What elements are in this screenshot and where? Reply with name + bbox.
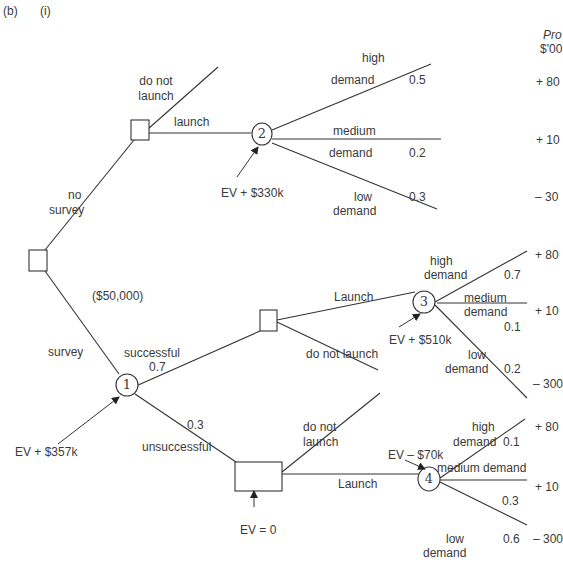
c4-high-line2: demand bbox=[453, 435, 496, 449]
chance-node-3-ev: EV + $510k bbox=[389, 333, 451, 347]
c4-low-prob: 0.6 bbox=[503, 532, 520, 546]
unsuccessful-prob: 0.3 bbox=[187, 418, 204, 432]
chance-node-3-label: 3 bbox=[417, 295, 431, 309]
profit-header-line1: Pro bbox=[543, 28, 562, 42]
top-launch-label: launch bbox=[174, 115, 209, 129]
survey-cost: ($50,000) bbox=[92, 289, 143, 303]
unsuccessful-decision-ev: EV = 0 bbox=[240, 523, 276, 537]
c4-high-profit: + 80 bbox=[535, 420, 559, 434]
decision-node-no-survey bbox=[131, 120, 149, 140]
c3-high-profit: + 80 bbox=[535, 248, 559, 262]
c4-low-line1: low bbox=[446, 532, 464, 546]
c2-medium-prob: 0.2 bbox=[409, 146, 426, 160]
top-do-not-launch-line1: do not bbox=[132, 74, 180, 88]
c3-low-prob: 0.2 bbox=[504, 362, 521, 376]
c3-medium-line1: medium bbox=[464, 291, 507, 305]
decision-node-successful bbox=[260, 310, 277, 331]
c2-high-profit: + 80 bbox=[536, 75, 560, 89]
unsuccessful-label: unsuccessful bbox=[142, 440, 211, 454]
c3-medium-prob: 0.1 bbox=[504, 320, 521, 334]
no-survey-line2: survey bbox=[49, 203, 84, 217]
c2-medium-line1: medium bbox=[333, 124, 376, 138]
decision-node-root bbox=[29, 250, 47, 271]
c3-medium-profit: + 10 bbox=[535, 304, 559, 318]
top-do-not-launch-line2: launch bbox=[132, 89, 180, 103]
c4-medium-profit: + 10 bbox=[535, 480, 559, 494]
no-survey-line1: no bbox=[68, 188, 81, 202]
chance-node-2-label: 2 bbox=[255, 127, 269, 141]
successful-prob: 0.7 bbox=[149, 360, 166, 374]
c2-medium-profit: + 10 bbox=[536, 133, 560, 147]
decision-node-unsuccessful bbox=[235, 462, 282, 491]
c4-low-profit: – 300 bbox=[533, 532, 563, 546]
c2-high-line1: high bbox=[362, 51, 385, 65]
c2-low-prob: 0.3 bbox=[409, 190, 426, 204]
c2-high-prob: 0.5 bbox=[409, 73, 426, 87]
c2-low-line2: demand bbox=[333, 204, 376, 218]
c4-low-line2: demand bbox=[423, 546, 466, 560]
chance-node-2-ev: EV + $330k bbox=[221, 186, 283, 200]
chance-node-1-ev: EV + $357k bbox=[15, 445, 77, 459]
c3-high-line1: high bbox=[430, 254, 453, 268]
profit-header-line2: $'00 bbox=[540, 42, 562, 56]
c4-high-line1: high bbox=[472, 420, 495, 434]
part-label: (b) bbox=[3, 4, 18, 18]
c3-medium-line2: demand bbox=[464, 305, 507, 319]
c2-low-profit: – 30 bbox=[535, 190, 558, 204]
subpart-label: (i) bbox=[40, 4, 51, 18]
succ-do-not-launch-label: do not launch bbox=[306, 347, 378, 361]
c3-low-line2: demand bbox=[445, 362, 488, 376]
c2-high-line2: demand bbox=[331, 73, 374, 87]
uns-do-not-launch-line2: launch bbox=[303, 435, 338, 449]
c4-medium-prob: 0.3 bbox=[502, 494, 519, 508]
c3-low-line1: low bbox=[468, 348, 486, 362]
c3-high-line2: demand bbox=[424, 268, 467, 282]
c2-low-line1: low bbox=[354, 190, 372, 204]
succ-launch-label: Launch bbox=[334, 290, 373, 304]
c4-medium-label: medium demand bbox=[437, 461, 526, 475]
c3-high-prob: 0.7 bbox=[504, 268, 521, 282]
chance-node-4-label: 4 bbox=[422, 472, 436, 486]
uns-launch-label: Launch bbox=[338, 477, 377, 491]
c3-low-profit: – 300 bbox=[533, 377, 563, 391]
chance-node-4-ev: EV – $70k bbox=[388, 448, 443, 462]
survey-label: survey bbox=[48, 345, 83, 359]
chance-node-1-label: 1 bbox=[120, 378, 134, 392]
successful-label: successful bbox=[124, 346, 180, 360]
uns-do-not-launch-line1: do not bbox=[303, 420, 336, 434]
c4-high-prob: 0.1 bbox=[503, 435, 520, 449]
c2-medium-line2: demand bbox=[329, 146, 372, 160]
